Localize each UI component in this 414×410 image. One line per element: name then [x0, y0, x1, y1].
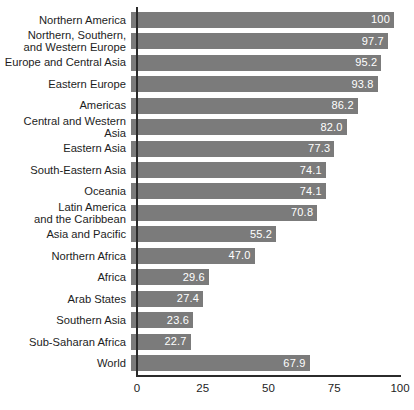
- category-label: Americas: [0, 99, 131, 111]
- bar-track: 97.7: [131, 30, 414, 51]
- chart-row: Asia and Pacific55.2: [0, 224, 414, 245]
- chart-row: Europe and Central Asia95.2: [0, 52, 414, 73]
- bar[interactable]: 77.3: [131, 141, 334, 157]
- chart-row: Americas86.2: [0, 95, 414, 116]
- chart-row: Southern Asia23.6: [0, 310, 414, 331]
- bar-track: 70.8: [131, 202, 414, 223]
- bar-track: 77.3: [131, 138, 414, 159]
- category-label: Southern Asia: [0, 314, 131, 326]
- chart-row: Central and Western Asia82.0: [0, 116, 414, 137]
- bar[interactable]: 22.7: [131, 334, 191, 350]
- bar-value-label: 70.8: [291, 207, 317, 218]
- bar-track: 100: [131, 9, 414, 30]
- chart-row: Oceania74.1: [0, 181, 414, 202]
- category-label: Northern Africa: [0, 250, 131, 262]
- bar-track: 82.0: [131, 116, 414, 137]
- bar[interactable]: 70.8: [131, 205, 317, 221]
- bar-value-label: 55.2: [250, 229, 276, 240]
- bar-track: 74.1: [131, 181, 414, 202]
- bar-value-label: 47.0: [228, 250, 254, 261]
- bar-value-label: 86.2: [331, 100, 357, 111]
- chart-row: Northern, Southern, and Western Europe97…: [0, 30, 414, 51]
- category-label: Arab States: [0, 293, 131, 305]
- chart-row: Eastern Europe93.8: [0, 73, 414, 94]
- bar-value-label: 100: [371, 14, 394, 25]
- category-label: Africa: [0, 271, 131, 283]
- x-tick-label: 75: [328, 381, 341, 395]
- bar-value-label: 29.6: [183, 272, 209, 283]
- x-tick-label: 0: [134, 381, 140, 395]
- bar-track: 67.9: [131, 353, 414, 374]
- bar-value-label: 27.4: [177, 293, 203, 304]
- bar[interactable]: 23.6: [131, 312, 193, 328]
- chart-row: South-Eastern Asia74.1: [0, 159, 414, 180]
- x-axis-line: [136, 375, 401, 377]
- x-tick-label: 100: [390, 381, 409, 395]
- bar[interactable]: 55.2: [131, 226, 276, 242]
- category-label: Asia and Pacific: [0, 228, 131, 240]
- bar-track: 93.8: [131, 73, 414, 94]
- bar-value-label: 95.2: [355, 57, 381, 68]
- bar[interactable]: 86.2: [131, 98, 358, 114]
- category-label: Eastern Europe: [0, 78, 131, 90]
- x-tick-label: 50: [262, 381, 275, 395]
- chart-rows: Northern America100Northern, Southern, a…: [0, 9, 414, 374]
- bar-track: 95.2: [131, 52, 414, 73]
- bar-track: 27.4: [131, 288, 414, 309]
- bar-value-label: 82.0: [320, 122, 346, 133]
- bar-value-label: 77.3: [308, 143, 334, 154]
- bar[interactable]: 67.9: [131, 355, 310, 371]
- bar-track: 29.6: [131, 267, 414, 288]
- bar-track: 47.0: [131, 245, 414, 266]
- x-axis-tick-labels: 0255075100: [0, 381, 414, 401]
- category-label: Northern, Southern, and Western Europe: [0, 29, 131, 54]
- horizontal-bar-chart: Northern America100Northern, Southern, a…: [0, 0, 414, 410]
- bar-track: 55.2: [131, 224, 414, 245]
- bar-track: 22.7: [131, 331, 414, 352]
- bar[interactable]: 74.1: [131, 162, 326, 178]
- bar[interactable]: 93.8: [131, 76, 378, 92]
- chart-row: Sub-Saharan Africa22.7: [0, 331, 414, 352]
- chart-row: Northern Africa47.0: [0, 245, 414, 266]
- bar-track: 86.2: [131, 95, 414, 116]
- category-label: South-Eastern Asia: [0, 164, 131, 176]
- bar-value-label: 74.1: [300, 165, 326, 176]
- chart-row: World67.9: [0, 353, 414, 374]
- chart-row: Latin America and the Caribbean70.8: [0, 202, 414, 223]
- chart-row: Northern America100: [0, 9, 414, 30]
- y-axis-line: [136, 7, 138, 376]
- bar[interactable]: 97.7: [131, 33, 388, 49]
- bar[interactable]: 95.2: [131, 55, 381, 71]
- bar-value-label: 22.7: [164, 336, 190, 347]
- bar[interactable]: 74.1: [131, 183, 326, 199]
- chart-row: Eastern Asia77.3: [0, 138, 414, 159]
- chart-row: Africa29.6: [0, 267, 414, 288]
- bar[interactable]: 47.0: [131, 248, 255, 264]
- bar[interactable]: 29.6: [131, 269, 209, 285]
- chart-row: Arab States27.4: [0, 288, 414, 309]
- bar[interactable]: 100: [131, 12, 394, 28]
- bar-value-label: 67.9: [283, 358, 309, 369]
- category-label: Eastern Asia: [0, 142, 131, 154]
- x-tick-label: 25: [196, 381, 209, 395]
- bar-track: 23.6: [131, 310, 414, 331]
- category-label: Sub-Saharan Africa: [0, 336, 131, 348]
- bar-value-label: 23.6: [167, 315, 193, 326]
- bar-value-label: 97.7: [362, 36, 388, 47]
- bar[interactable]: 82.0: [131, 119, 347, 135]
- category-label: Europe and Central Asia: [0, 56, 131, 68]
- bar-track: 74.1: [131, 159, 414, 180]
- bar-value-label: 93.8: [351, 79, 377, 90]
- category-label: World: [0, 357, 131, 369]
- category-label: Latin America and the Caribbean: [0, 201, 131, 226]
- category-label: Oceania: [0, 185, 131, 197]
- category-label: Northern America: [0, 14, 131, 26]
- bar[interactable]: 27.4: [131, 291, 203, 307]
- bar-value-label: 74.1: [300, 186, 326, 197]
- category-label: Central and Western Asia: [0, 115, 131, 140]
